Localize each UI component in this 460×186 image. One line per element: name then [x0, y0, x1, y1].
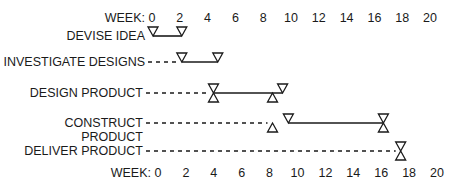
axis-tick-label: 8	[260, 11, 267, 25]
axis-tick-label: 0	[155, 166, 162, 180]
task-label: PRODUCT	[81, 130, 143, 144]
axis-tick-label: 0	[149, 11, 156, 25]
axis-tick-label: 18	[395, 11, 409, 25]
task-label: CONSTRUCT	[65, 116, 144, 130]
task-row: CONSTRUCTPRODUCT	[65, 114, 389, 144]
finish-marker-up-triangle-icon	[378, 123, 388, 132]
axis-tick-label: 18	[402, 166, 416, 180]
finish-marker-up-triangle-icon	[268, 123, 278, 132]
axis-tick-label: 6	[232, 11, 239, 25]
axis-tick-label: 4	[210, 166, 217, 180]
bottom-week-axis: WEEK:02468101214161820	[111, 166, 444, 180]
axis-tick-label: 6	[238, 166, 245, 180]
gantt-chart: WEEK:02468101214161820 WEEK:024681012141…	[0, 0, 460, 186]
axis-tick-label: 12	[312, 11, 326, 25]
axis-tick-label: 10	[291, 166, 305, 180]
start-marker-down-triangle-icon	[148, 27, 158, 36]
finish-marker-up-triangle-icon	[396, 151, 406, 160]
task-label: DELIVER PRODUCT	[24, 144, 143, 158]
start-marker-down-triangle-icon	[213, 53, 223, 62]
axis-tick-label: 2	[182, 166, 189, 180]
task-rows: DEVISE IDEAINVESTIGATE DESIGNSDESIGN PRO…	[4, 27, 406, 160]
axis-tick-label: 14	[346, 166, 360, 180]
axis-tick-label: 16	[367, 11, 381, 25]
axis-tick-label: 4	[204, 11, 211, 25]
finish-marker-up-triangle-icon	[268, 93, 278, 102]
task-label: INVESTIGATE DESIGNS	[4, 55, 145, 69]
axis-tick-label: 10	[284, 11, 298, 25]
axis-tick-label: 2	[176, 11, 183, 25]
start-marker-down-triangle-icon	[177, 53, 187, 62]
task-label: DESIGN PRODUCT	[30, 86, 144, 100]
axis-label: WEEK:	[105, 11, 145, 25]
task-label: DEVISE IDEA	[67, 29, 146, 43]
task-row: INVESTIGATE DESIGNS	[4, 53, 223, 69]
start-marker-down-triangle-icon	[278, 84, 288, 93]
axis-tick-label: 20	[423, 11, 437, 25]
axis-tick-label: 16	[374, 166, 388, 180]
start-marker-down-triangle-icon	[283, 114, 293, 123]
task-row: DESIGN PRODUCT	[30, 84, 288, 102]
task-row: DEVISE IDEA	[67, 27, 187, 43]
start-marker-down-triangle-icon	[378, 114, 388, 123]
start-marker-down-triangle-icon	[396, 142, 406, 151]
axis-tick-label: 20	[430, 166, 444, 180]
finish-marker-up-triangle-icon	[208, 93, 218, 102]
start-marker-down-triangle-icon	[177, 27, 187, 36]
task-row: DELIVER PRODUCT	[24, 142, 405, 160]
start-marker-down-triangle-icon	[208, 84, 218, 93]
axis-tick-label: 14	[340, 11, 354, 25]
top-week-axis: WEEK:02468101214161820	[105, 11, 437, 25]
axis-tick-label: 12	[318, 166, 332, 180]
axis-label: WEEK:	[111, 166, 151, 180]
axis-tick-label: 8	[266, 166, 273, 180]
